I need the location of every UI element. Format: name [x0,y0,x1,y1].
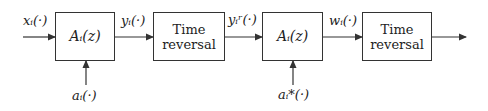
allpass1-output-label: yᵢ(·) [121,13,145,28]
allpass-filter-block-1: Aᵢ(z) [55,12,115,61]
allpass-filter-label: Aᵢ(z) [69,29,100,44]
coefficient-label-1: aᵢ(·) [72,88,97,103]
time-reversal-line2: reversal [370,37,424,52]
allpass2-output-label: wᵢ(·) [329,13,357,28]
time-reversal-block-1: Time reversal [153,12,225,61]
time-reversal-block-2: Time reversal [362,12,432,61]
coefficient-label-2: aᵢ*(·) [278,87,309,102]
time-reversal-line1: Time [381,22,414,37]
timerev1-output-label: yᵢʳ(·) [228,12,257,27]
allpass-filter-block-2: Aᵢ(z) [262,12,323,61]
input-signal-label: xᵢ(·) [23,13,47,28]
time-reversal-line1: Time [173,22,206,37]
time-reversal-line2: reversal [162,37,216,52]
allpass-filter-label: Aᵢ(z) [277,29,308,44]
